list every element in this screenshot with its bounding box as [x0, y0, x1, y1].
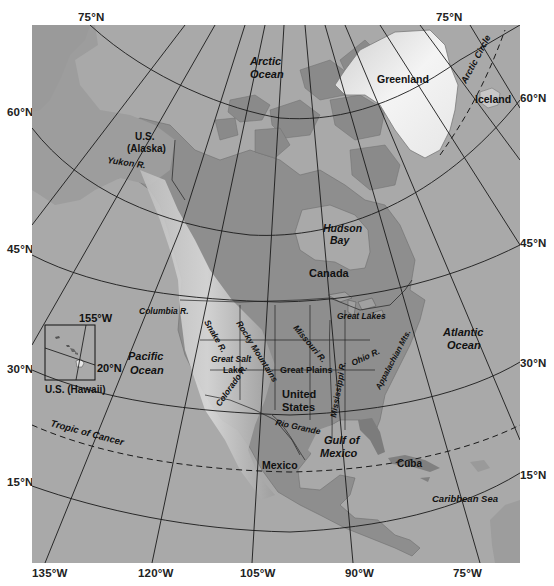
lat-label-60n-left: 60°N [7, 106, 34, 118]
inset-lon-label: 155°W [79, 312, 113, 324]
lat-label-30n-left: 30°N [7, 363, 34, 375]
label-greenland: Greenland [377, 73, 429, 85]
lat-label-15n-left: 15°N [7, 476, 34, 488]
lon-label-135w: 135°W [32, 567, 68, 579]
lat-label-45n-right: 45°N [520, 237, 547, 249]
lon-label-75w: 75°W [453, 567, 482, 579]
label-great-salt-lake-1: Great Salt [211, 354, 252, 364]
label-atlantic-ocean-1: Atlantic [442, 326, 483, 338]
label-pacific-ocean-2: Ocean [130, 364, 164, 376]
label-great-plains: Great Plains [280, 365, 333, 375]
lon-label-90w: 90°W [345, 567, 374, 579]
label-cuba: Cuba [397, 458, 422, 469]
lat-label-75n-top-right: 75°N [436, 11, 463, 23]
label-united-states-2: States [282, 401, 315, 413]
map-svg: Arctic Ocean Pacific Ocean Atlantic Ocea… [32, 25, 520, 563]
label-hudson-bay-2: Bay [330, 234, 350, 246]
label-gulf-of-mexico-2: Mexico [320, 447, 358, 459]
label-hudson-bay-1: Hudson [323, 222, 362, 234]
lat-label-60n-right: 60°N [520, 92, 547, 104]
lon-label-120w: 120°W [138, 567, 174, 579]
label-alaska-1: U.S. [135, 131, 155, 142]
label-us-hawaii: U.S. (Hawaii) [45, 384, 106, 395]
label-iceland: Iceland [475, 93, 511, 105]
lat-label-75n-top-left: 75°N [78, 11, 105, 23]
label-atlantic-ocean-2: Ocean [447, 339, 481, 351]
label-gulf-of-mexico-1: Gulf of [324, 434, 361, 446]
label-arctic-ocean-2: Ocean [250, 68, 284, 80]
label-arctic-ocean-1: Arctic [249, 55, 281, 67]
label-united-states-1: United [282, 388, 316, 400]
label-great-lakes: Great Lakes [337, 311, 386, 321]
label-pacific-ocean-1: Pacific [128, 350, 163, 362]
label-canada: Canada [309, 267, 350, 279]
lon-label-105w: 105°W [240, 567, 276, 579]
label-columbia-river: Columbia R. [139, 306, 189, 316]
label-mexico: Mexico [262, 459, 298, 471]
map-frame: Arctic Ocean Pacific Ocean Atlantic Ocea… [32, 25, 520, 563]
lat-label-15n-right: 15°N [520, 469, 547, 481]
inset-lat-label: 20°N [97, 362, 122, 374]
lat-label-30n-right: 30°N [520, 357, 547, 369]
label-alaska-2: (Alaska) [127, 143, 166, 154]
label-caribbean-sea: Caribbean Sea [432, 493, 498, 504]
lat-label-45n-left: 45°N [7, 243, 34, 255]
